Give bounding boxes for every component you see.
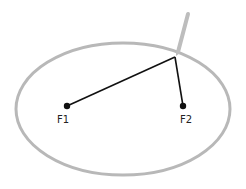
focus-point-f1 [64,103,70,109]
ellipse-outline [16,43,230,175]
focus-label-f1: F1 [57,114,69,125]
focus-label-f2: F2 [180,114,192,125]
focus-point-f2 [180,103,186,109]
ellipse-diagram: F1 F2 [0,0,246,189]
string-segment-f2 [175,57,183,106]
pencil-icon [178,14,188,52]
string-segment-f1 [67,57,175,106]
